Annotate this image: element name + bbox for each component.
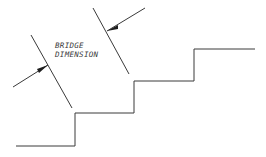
left-arrowhead-icon bbox=[37, 65, 48, 73]
right-extension-line bbox=[93, 8, 129, 74]
bridge-dimension-diagram: BRIDGE DIMENSION bbox=[0, 0, 266, 157]
bridge-dimension-label: BRIDGE DIMENSION bbox=[55, 41, 98, 59]
right-dimension-arrow-shaft bbox=[107, 8, 145, 31]
staircase-profile bbox=[16, 49, 255, 146]
diagram-drawing bbox=[0, 0, 266, 157]
label-line-1: BRIDGE bbox=[55, 41, 98, 50]
label-line-2: DIMENSION bbox=[55, 50, 98, 59]
